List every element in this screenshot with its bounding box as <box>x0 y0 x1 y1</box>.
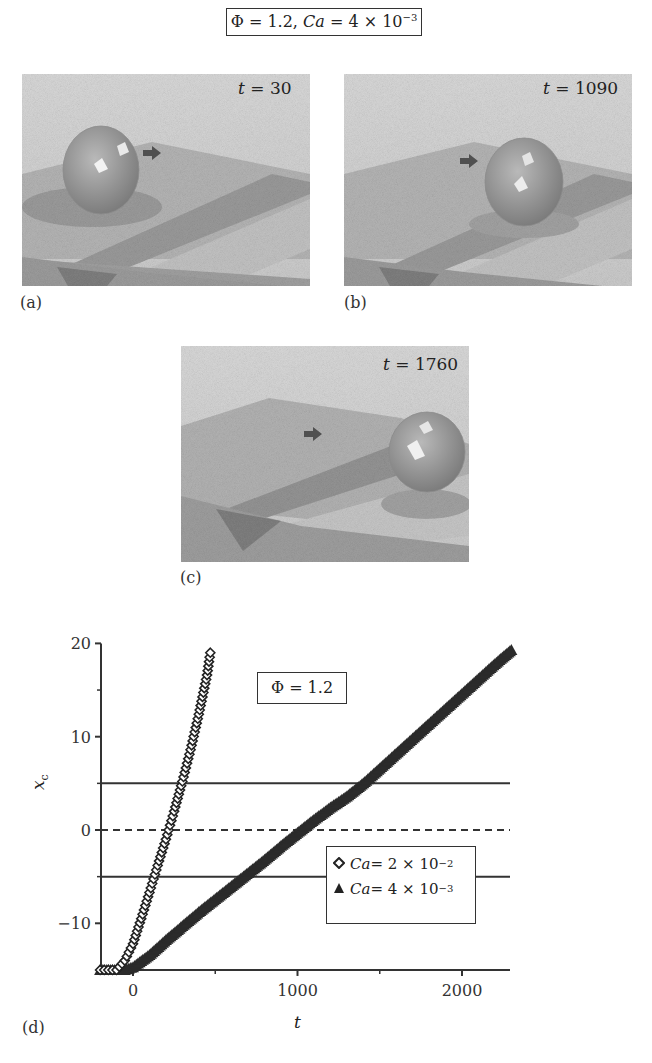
y-axis-label: xc <box>28 760 51 790</box>
parameters-title-box: Φ = 1.2, Ca = 4 × 10−3 <box>226 8 422 36</box>
panel-a-render <box>22 74 310 286</box>
legend-item-ca-2e-2: Ca = 2 × 10−2 <box>333 851 467 876</box>
x-tick-label: 2000 <box>442 981 483 1000</box>
legend-item-ca-4e-3: Ca = 4 × 10−3 <box>333 876 467 901</box>
xc-vs-t-chart: −1001020010002000 <box>0 540 652 1040</box>
panel-b-render <box>344 74 632 286</box>
panel-d-label: (d) <box>22 1018 45 1037</box>
ca-exponent: −3 <box>403 12 418 23</box>
direction-arrow-icon <box>143 146 161 160</box>
panel-b-label: (b) <box>344 293 367 312</box>
ca-symbol: Ca <box>303 12 325 31</box>
direction-arrow-icon <box>460 154 478 168</box>
ca-value: = 4 × 10 <box>325 12 403 31</box>
x-tick-label: 1000 <box>277 981 318 1000</box>
phi-text: Φ = 1.2, <box>231 12 303 31</box>
filled-triangle-icon <box>333 880 347 898</box>
y-tick-label: 20 <box>71 634 91 653</box>
y-tick-label: −10 <box>57 914 91 933</box>
panel-c-render <box>181 346 469 562</box>
phi-annotation-box: Φ = 1.2 <box>257 672 347 704</box>
direction-arrow-icon <box>304 427 322 441</box>
y-tick-label: 10 <box>71 728 91 747</box>
chart-legend: Ca = 2 × 10−2 Ca = 4 × 10−3 <box>326 846 476 924</box>
open-diamond-icon <box>333 855 347 873</box>
panel-c-time-label: t = 1760 <box>383 354 458 374</box>
series-ca-2e-2 <box>96 648 215 974</box>
panel-a-label: (a) <box>20 293 42 312</box>
y-tick-label: 0 <box>81 821 91 840</box>
x-tick-label: 0 <box>128 981 138 1000</box>
panel-a-time-label: t = 30 <box>238 78 292 98</box>
x-axis-label: t <box>294 1012 301 1032</box>
panel-b-time-label: t = 1090 <box>543 78 618 98</box>
